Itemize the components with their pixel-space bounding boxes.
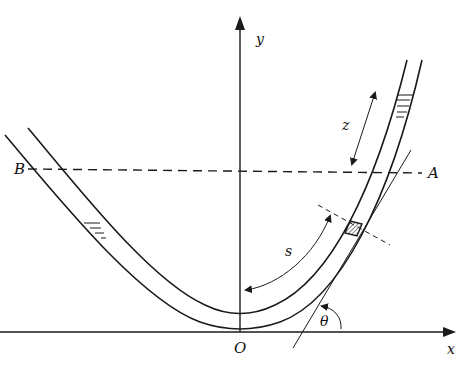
- label-A: A: [426, 164, 439, 182]
- tube-outer-wall: [5, 60, 422, 329]
- x-axis-arrow-icon: [443, 327, 456, 337]
- label-theta: θ: [320, 313, 329, 329]
- label-origin: O: [234, 339, 246, 357]
- fluid-element: [345, 221, 362, 236]
- y-axis-arrow-icon: [235, 16, 245, 30]
- y-axis: [235, 16, 245, 332]
- label-x: x: [447, 341, 455, 357]
- label-s: s: [285, 243, 292, 259]
- tube-inner-wall: [28, 60, 407, 314]
- z-dimension-arrow: [352, 93, 375, 164]
- diagram-canvas: B A z s θ y x O: [0, 0, 470, 371]
- equilibrium-line-BA: [28, 169, 422, 173]
- label-y: y: [255, 31, 265, 47]
- label-z: z: [341, 117, 350, 133]
- label-B: B: [13, 160, 25, 178]
